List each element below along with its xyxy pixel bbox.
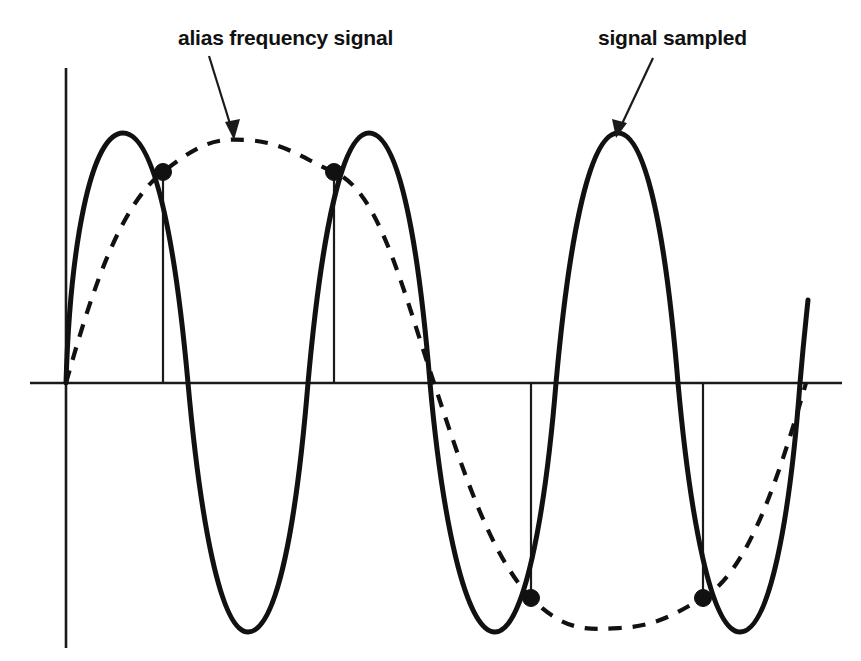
alias-frequency-signal-arrowhead [225,119,240,140]
aliasing-diagram: alias frequency signal signal sampled [0,0,861,661]
diagram-canvas: alias frequency signal signal sampled [0,0,861,661]
signal-sampled-label: signal sampled [598,26,747,49]
sample-point-1 [155,164,172,181]
annotation-alias-frequency-signal: alias frequency signal [178,26,393,140]
alias-frequency-signal-leader [209,56,231,127]
alias-frequency-signal-label: alias frequency signal [178,26,393,49]
sample-point-4 [695,590,712,607]
sample-point-3 [523,590,540,607]
axes-group [30,68,842,648]
sample-stems-group [163,172,703,598]
signal-sampled-leader [621,58,653,126]
annotation-signal-sampled: signal sampled [598,26,747,138]
sample-dots-group [155,164,712,607]
sample-point-2 [326,164,343,181]
